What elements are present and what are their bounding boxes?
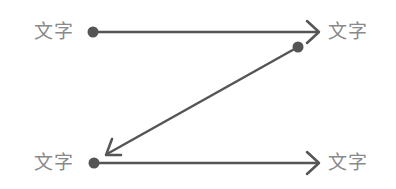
top-arrow	[88, 21, 320, 43]
label-top-left: 文字	[34, 22, 74, 41]
bottom-arrow	[89, 152, 320, 174]
diagonal-arrow	[106, 42, 304, 156]
label-bottom-left: 文字	[34, 153, 74, 172]
label-bottom-right: 文字	[328, 153, 368, 172]
diagonal-line	[107, 47, 298, 154]
label-top-right: 文字	[328, 22, 368, 41]
